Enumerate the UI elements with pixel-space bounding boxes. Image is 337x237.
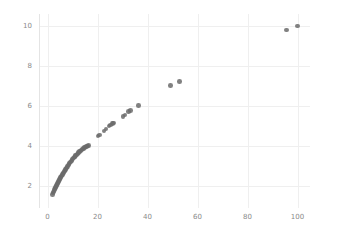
y-tick-label-6: 6 <box>10 102 32 110</box>
x-tick-label-20: 20 <box>93 213 102 221</box>
data-point <box>136 103 141 108</box>
x-tick-label-80: 80 <box>243 213 252 221</box>
plot-area <box>40 14 310 208</box>
gridline-x-3 <box>198 14 199 208</box>
y-tick-label-10: 10 <box>10 22 32 30</box>
y-tick-label-8: 8 <box>10 62 32 70</box>
gridline-y-3 <box>40 66 310 67</box>
gridline-x-2 <box>148 14 149 208</box>
gridline-x-4 <box>248 14 249 208</box>
gridline-x-0 <box>48 14 49 208</box>
data-point <box>111 121 116 126</box>
gridline-y-4 <box>40 26 310 27</box>
data-point <box>168 83 173 88</box>
x-tick-label-0: 0 <box>45 213 49 221</box>
data-point <box>86 143 91 148</box>
gridline-y-2 <box>40 106 310 107</box>
scatter-chart-figure: 020406080100 246810 <box>0 0 337 237</box>
data-point <box>177 79 182 84</box>
data-point <box>284 28 289 33</box>
data-point <box>97 133 102 138</box>
gridline-x-1 <box>98 14 99 208</box>
x-tick-label-100: 100 <box>291 213 304 221</box>
x-tick-label-40: 40 <box>143 213 152 221</box>
x-tick-label-60: 60 <box>193 213 202 221</box>
data-point <box>295 24 300 29</box>
y-tick-label-2: 2 <box>10 182 32 190</box>
y-tick-label-4: 4 <box>10 142 32 150</box>
gridline-x-5 <box>298 14 299 208</box>
data-point <box>128 108 133 113</box>
gridline-y-0 <box>40 186 310 187</box>
